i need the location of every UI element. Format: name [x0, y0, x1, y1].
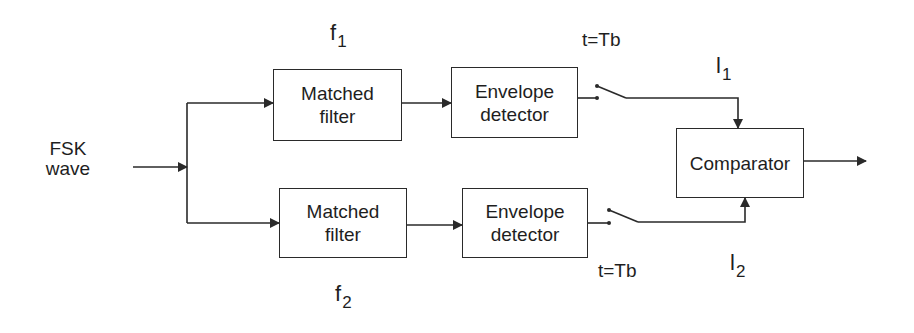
frequency-label-f2: f2 [335, 283, 352, 305]
comparator: Comparator [676, 128, 804, 198]
input-label-line2: wave [38, 159, 98, 179]
arrow-l1-to-comparator [626, 98, 738, 128]
envelope-detector-1: Envelope detector [451, 67, 578, 138]
output-label-l1: l1 [716, 55, 731, 77]
output-label-l2: l2 [730, 252, 745, 274]
envelope-detector-2: Envelope detector [462, 188, 588, 258]
arrow-l2-to-comparator [638, 198, 745, 222]
sampler-label-1: t=Tb [582, 30, 621, 49]
matched-filter-2: Matched filter [279, 188, 407, 258]
input-label: FSK wave [38, 139, 98, 179]
matched-filter-1: Matched filter [273, 69, 402, 141]
input-label-line1: FSK [38, 139, 98, 159]
frequency-label-f1: f1 [330, 22, 347, 44]
sampler-switch-1 [597, 86, 626, 98]
fsk-receiver-diagram: FSK wave f1 f2 Matched filter Matched fi… [0, 0, 914, 333]
sampler-label-2: t=Tb [598, 261, 637, 280]
sampler-switch-2 [609, 210, 638, 222]
